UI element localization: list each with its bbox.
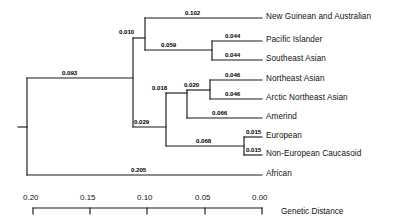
branch-length-caucasoid-clade: 0.068 (196, 138, 211, 144)
phylogenetic-tree-figure: New Guinean and Australian Pacific Islan… (0, 0, 403, 223)
branch-length-pacific-pair: 0.059 (161, 42, 176, 48)
leaf-label-amerind: Amerind (266, 113, 297, 121)
branch-length-african: 0.205 (131, 167, 146, 173)
branch-length-pacific-islander: 0.044 (225, 33, 240, 39)
branch-length-main-clade: 0.093 (62, 70, 77, 76)
axis-tick-label-0-15: 0.15 (80, 194, 96, 202)
branch-length-asian-amerind: 0.018 (152, 85, 167, 91)
branch-length-non-european-caucasoid: 0.015 (246, 147, 261, 153)
branch-length-pacific-clade: 0.010 (119, 29, 134, 35)
branch-length-northeast-asian: 0.046 (225, 72, 240, 78)
branch-length-european: 0.015 (246, 129, 261, 135)
leaf-label-new-guinean-and-australian: New Guinean and Australian (266, 13, 371, 21)
leaf-label-african: African (266, 170, 292, 178)
leaf-label-pacific-islander: Pacific Islander (266, 36, 322, 44)
branch-length-eurasian-american: 0.029 (134, 119, 149, 125)
leaf-label-non-european-caucasoid: Non-European Caucasoid (266, 150, 361, 158)
leaf-label-northeast-asian: Northeast Asian (266, 75, 325, 83)
tree-drawing (0, 0, 403, 223)
axis-tick-label-0-05: 0.05 (195, 194, 211, 202)
leaf-label-european: European (266, 132, 302, 140)
axis-tick-label-0-10: 0.10 (137, 194, 153, 202)
branch-length-amerind: 0.066 (212, 110, 227, 116)
branch-length-southeast-asian: 0.044 (225, 52, 240, 58)
axis-title-genetic-distance: Genetic Distance (281, 208, 343, 216)
leaf-label-arctic-northeast-asian: Arctic Northeast Asian (266, 94, 348, 102)
leaf-label-southeast-asian: Southeast Asian (266, 55, 326, 63)
branch-length-new-guinean: 0.102 (185, 10, 200, 16)
axis-tick-label-0-00: 0.00 (252, 194, 268, 202)
branch-length-ne-asian-pair: 0.020 (184, 82, 199, 88)
branch-length-arctic-northeast-asian: 0.046 (225, 91, 240, 97)
axis-tick-label-0-20: 0.20 (23, 194, 39, 202)
